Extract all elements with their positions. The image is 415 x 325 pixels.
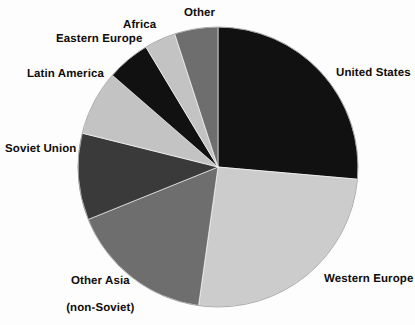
- slice-label-other-asia: Other Asia (non-Soviet): [53, 261, 134, 325]
- slice-label-other-asia-line2: (non-Soviet): [66, 302, 134, 314]
- slice-label-soviet-union: Soviet Union: [5, 143, 76, 157]
- slice-label-latin-america: Latin America: [27, 68, 104, 82]
- slice-label-other: Other: [184, 7, 215, 21]
- pie-chart: United States Western Europe Other Asia …: [0, 0, 415, 325]
- pie-slice-united-states: [218, 27, 358, 179]
- slice-label-africa: Africa: [123, 19, 156, 33]
- slice-label-eastern-europe: Eastern Europe: [56, 33, 142, 47]
- slice-label-western-europe: Western Europe: [324, 273, 413, 287]
- slice-label-united-states: United States: [336, 67, 411, 81]
- slice-label-other-asia-line1: Other Asia: [71, 275, 130, 287]
